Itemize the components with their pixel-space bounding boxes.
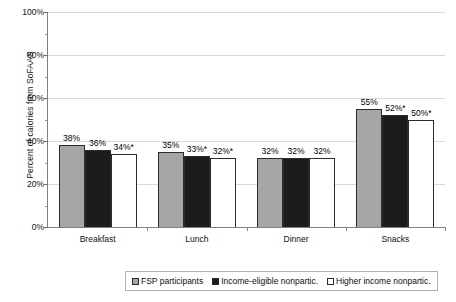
y-axis-title: Percent of calories from SoFAAS bbox=[25, 5, 35, 225]
bar-value-label: 32% bbox=[314, 146, 331, 156]
bar[interactable]: 52%* bbox=[382, 115, 408, 227]
plot-inner: 0%20%40%60%80%100%38%36%34%*Breakfast35%… bbox=[48, 12, 445, 227]
y-axis-tick-label: 40% bbox=[0, 136, 44, 146]
x-axis-category-label: Snacks bbox=[346, 234, 445, 244]
y-axis-tick-label: 20% bbox=[0, 179, 44, 189]
bar-group-bars: 32%32%32% bbox=[247, 12, 346, 227]
legend-item-label: Higher income nonpartic. bbox=[336, 276, 431, 286]
x-axis-category-label: Dinner bbox=[247, 234, 346, 244]
bar-value-label: 36% bbox=[89, 138, 106, 148]
x-axis-tick-mark bbox=[147, 227, 148, 231]
x-axis-category-label: Breakfast bbox=[48, 234, 147, 244]
legend-swatch-icon bbox=[132, 278, 139, 285]
y-axis-tick-label: 80% bbox=[0, 50, 44, 60]
plot-area: 0%20%40%60%80%100%38%36%34%*Breakfast35%… bbox=[47, 12, 445, 228]
bar-group-bars: 38%36%34%* bbox=[48, 12, 147, 227]
bar-value-label: 34%* bbox=[113, 142, 133, 152]
y-axis-tick-label: 60% bbox=[0, 93, 44, 103]
bar-value-label: 32%* bbox=[213, 146, 233, 156]
bar-group: 35%33%*32%*Lunch bbox=[147, 12, 246, 227]
legend-swatch-icon bbox=[212, 278, 219, 285]
x-axis-tick-mark bbox=[247, 227, 248, 231]
bar[interactable]: 55% bbox=[356, 109, 382, 227]
bar-value-label: 33%* bbox=[187, 144, 207, 154]
bar[interactable]: 32% bbox=[309, 158, 335, 227]
y-axis-tick-label: 100% bbox=[0, 7, 44, 17]
bar-value-label: 38% bbox=[63, 133, 80, 143]
bar[interactable]: 35% bbox=[158, 152, 184, 227]
bar[interactable]: 32% bbox=[257, 158, 283, 227]
x-axis-tick-mark bbox=[445, 227, 446, 231]
legend-item[interactable]: FSP participants bbox=[132, 276, 203, 286]
bar-value-label: 32% bbox=[262, 146, 279, 156]
bar[interactable]: 34%* bbox=[111, 154, 137, 227]
legend-item-label: Income-eligible nonpartic. bbox=[221, 276, 318, 286]
bar-group: 38%36%34%*Breakfast bbox=[48, 12, 147, 227]
bar-value-label: 32% bbox=[288, 146, 305, 156]
bar-group-bars: 35%33%*32%* bbox=[147, 12, 246, 227]
y-axis-tick-mark bbox=[44, 227, 48, 228]
bar-value-label: 35% bbox=[162, 140, 179, 150]
chart-legend: FSP participantsIncome-eligible nonparti… bbox=[125, 271, 438, 291]
bar-value-label: 52%* bbox=[385, 103, 405, 113]
bar-group: 32%32%32%Dinner bbox=[247, 12, 346, 227]
bar[interactable]: 33%* bbox=[184, 156, 210, 227]
legend-swatch-icon bbox=[327, 278, 334, 285]
bar[interactable]: 50%* bbox=[408, 120, 434, 228]
bar[interactable]: 38% bbox=[59, 145, 85, 227]
x-axis-tick-mark bbox=[346, 227, 347, 231]
x-axis-category-label: Lunch bbox=[147, 234, 246, 244]
y-axis-tick-label: 0% bbox=[0, 222, 44, 232]
bar-value-label: 50%* bbox=[411, 108, 431, 118]
bar[interactable]: 32% bbox=[283, 158, 309, 227]
chart-figure: Percent of calories from SoFAAS 0%20%40%… bbox=[0, 0, 456, 302]
legend-item[interactable]: Higher income nonpartic. bbox=[327, 276, 431, 286]
bar[interactable]: 32%* bbox=[210, 158, 236, 227]
bar-group: 55%52%*50%*Snacks bbox=[346, 12, 445, 227]
bar[interactable]: 36% bbox=[85, 150, 111, 227]
bar-value-label: 55% bbox=[361, 97, 378, 107]
legend-item-label: FSP participants bbox=[141, 276, 203, 286]
bar-group-bars: 55%52%*50%* bbox=[346, 12, 445, 227]
legend-item[interactable]: Income-eligible nonpartic. bbox=[212, 276, 318, 286]
